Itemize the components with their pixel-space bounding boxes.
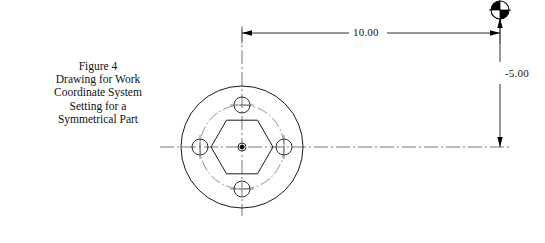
- figure-caption: Figure 4 Drawing for Work Coordinate Sys…: [18, 60, 178, 126]
- part-centerlines: [160, 28, 512, 216]
- dimension-label-vertical: -5.00: [503, 67, 531, 79]
- caption-line-3: Coordinate System: [18, 86, 178, 99]
- arrowhead-bottom: [497, 137, 502, 147]
- caption-line-5: Symmetrical Part: [18, 113, 178, 126]
- dimension-label-horizontal: 10.00: [351, 26, 381, 38]
- figure-canvas: Figure 4 Drawing for Work Coordinate Sys…: [0, 0, 545, 243]
- arrowhead-right: [490, 30, 500, 35]
- caption-line-2: Drawing for Work: [18, 73, 178, 86]
- arrowhead-left: [242, 30, 252, 35]
- caption-line-4: Setting for a: [18, 100, 178, 113]
- dimension-vertical: [497, 18, 502, 147]
- caption-line-1: Figure 4: [18, 60, 178, 73]
- work-coordinate-origin-icon: [489, 0, 511, 21]
